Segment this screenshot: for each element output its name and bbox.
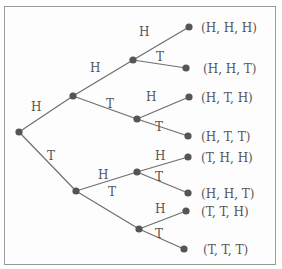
outcome-label: (H, H, T) bbox=[203, 62, 257, 76]
leaf-node-6 bbox=[184, 189, 191, 196]
branch-label: T bbox=[108, 185, 116, 199]
branch-label: T bbox=[156, 50, 164, 64]
node-HH bbox=[129, 56, 136, 63]
branch-label: T bbox=[155, 170, 163, 184]
branch-label: H bbox=[98, 168, 108, 182]
branch-label: H bbox=[155, 149, 165, 163]
edge-root-H bbox=[19, 96, 73, 132]
branch-label: T bbox=[106, 97, 114, 111]
outcome-label: (H, H, H) bbox=[201, 21, 257, 35]
outcome-label: (T, T, T) bbox=[203, 243, 248, 257]
outcome-label: (T, T, H) bbox=[201, 205, 249, 219]
branch-label: T bbox=[155, 120, 163, 134]
node-TT bbox=[135, 225, 142, 232]
node-H bbox=[69, 92, 76, 99]
leaf-node-1 bbox=[185, 23, 192, 30]
node-T bbox=[72, 187, 79, 194]
outcome-label: (H, T, H) bbox=[201, 91, 253, 105]
branch-label: H bbox=[31, 100, 41, 114]
leaf-node-2 bbox=[182, 64, 189, 71]
leaf-node-4 bbox=[184, 132, 191, 139]
leaf-node-5 bbox=[184, 153, 191, 160]
branch-label: T bbox=[155, 227, 163, 241]
branch-label: H bbox=[139, 25, 149, 39]
leaf-node-8 bbox=[180, 245, 187, 252]
branch-label: T bbox=[47, 149, 55, 163]
node-HT bbox=[133, 115, 140, 122]
outcome-label: (T, H, H) bbox=[201, 151, 253, 165]
branch-label: H bbox=[90, 61, 100, 75]
tree-diagram: H T H T H T H T H T H T H T (H, H, H) (H… bbox=[0, 0, 282, 269]
node-root bbox=[15, 128, 22, 135]
edge-HT-H bbox=[137, 97, 189, 119]
branch-label: H bbox=[146, 90, 156, 104]
branch-label: H bbox=[155, 202, 165, 216]
outcome-label: (H, T, T) bbox=[201, 130, 250, 144]
leaf-node-7 bbox=[182, 207, 189, 214]
outcome-label: (H, H, T) bbox=[201, 187, 255, 201]
edge-H-H bbox=[73, 60, 133, 96]
edge-H-T bbox=[73, 96, 137, 119]
leaf-node-3 bbox=[185, 93, 192, 100]
node-TH bbox=[133, 168, 140, 175]
